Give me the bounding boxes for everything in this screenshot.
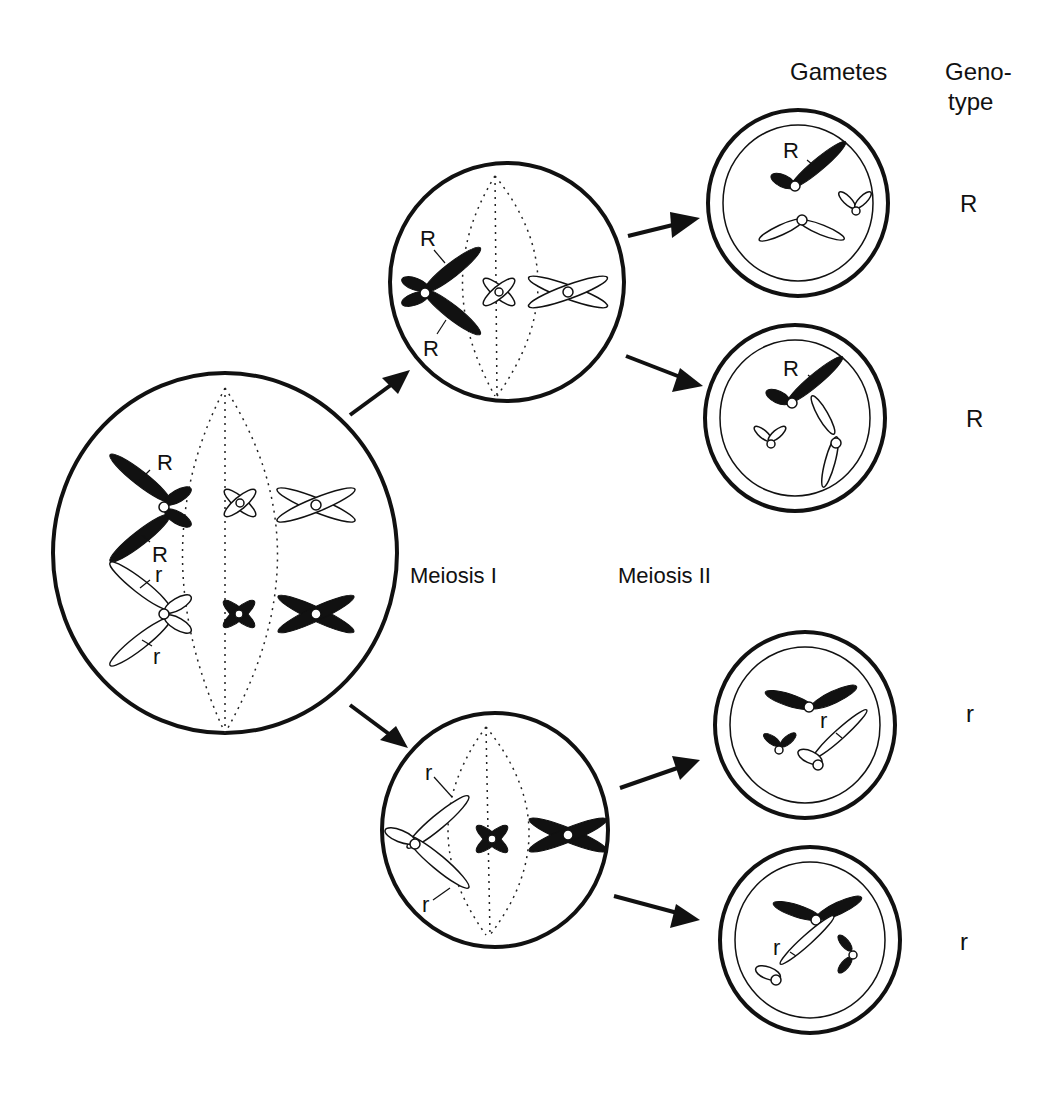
chromosome-R-pair [400, 242, 485, 339]
chromosome-medium-white [526, 271, 610, 313]
allele-label: r [153, 644, 160, 669]
genotype-label: R [960, 190, 977, 217]
gamete-4: r [720, 847, 900, 1033]
chromosome-R-homolog [106, 449, 194, 567]
genotype-header-line1: Geno- [945, 58, 1012, 85]
allele-label: r [425, 760, 432, 785]
arrow-icon [614, 896, 700, 928]
chromosome-r-pair [383, 777, 473, 900]
arrow-icon [626, 356, 703, 392]
arrow-icon [620, 756, 700, 788]
chromosome-small-white [480, 275, 518, 310]
arrow-icon [628, 212, 700, 238]
meiosis-i-cell-bottom: r r [382, 713, 610, 947]
meiosis-i-label: Meiosis I [410, 563, 497, 588]
chromosome-small-black [473, 822, 511, 857]
allele-label: R [423, 336, 439, 361]
arrow-icon [350, 705, 408, 748]
parent-cell: R R r r [53, 373, 397, 733]
allele-label: r [773, 935, 780, 960]
gamete-2: R [705, 325, 885, 511]
chromosome-medium-black [526, 813, 609, 857]
allele-label: R [783, 356, 799, 381]
allele-label: r [820, 708, 827, 733]
gamete-3: r [715, 632, 895, 818]
allele-label: R [783, 138, 799, 163]
allele-label: R [420, 226, 436, 251]
gamete-1: R [708, 110, 888, 296]
allele-label: R [157, 450, 173, 475]
gametes-header: Gametes [790, 58, 887, 85]
genotype-header-line2: type [948, 88, 993, 115]
meiosis-ii-label: Meiosis II [618, 563, 711, 588]
chromosome-medium-black [275, 590, 357, 638]
chromosome-medium-white [274, 483, 357, 527]
genotype-label: r [960, 928, 968, 955]
chromosome-r-homolog [106, 557, 194, 671]
meiosis-diagram: Gametes Geno- type Meiosis I Meiosis II … [0, 0, 1059, 1105]
meiosis-i-cell-top: R R [390, 163, 624, 401]
chromosome-small-white [221, 486, 259, 521]
genotype-label: R [966, 405, 983, 432]
allele-label: r [422, 892, 429, 917]
arrow-icon [350, 370, 410, 415]
genotype-label: r [966, 700, 974, 727]
allele-label: r [155, 562, 162, 587]
